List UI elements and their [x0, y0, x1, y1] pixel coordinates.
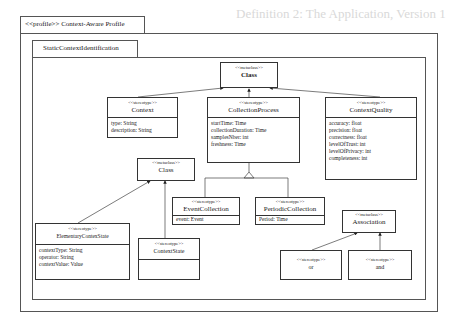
stereotype-context: <<stereotype>> Context type: String desc…: [107, 97, 178, 138]
attribute: Period: Time: [259, 216, 321, 223]
attribute: event: Event: [176, 216, 236, 223]
metaclass-class-top: <<metaclass>> Class: [220, 62, 278, 88]
attribute-list: Period: Time: [256, 215, 324, 223]
class-name: EventCollection: [173, 205, 239, 214]
class-name: and: [349, 263, 411, 272]
metaclass-association: <<metaclass>> Association: [342, 210, 396, 233]
class-name: PeriodicCollection: [256, 205, 324, 214]
attribute: accuracy: float: [329, 120, 413, 127]
class-name: Class: [138, 166, 194, 175]
class-name: ContextState: [139, 247, 199, 256]
attribute: freshness: Time: [211, 141, 296, 148]
stereotype-periodic-collection: <<stereotype>> PeriodicCollection Period…: [255, 197, 325, 225]
attribute-list: [139, 259, 199, 278]
attribute: startTime: Time: [211, 120, 296, 127]
stereotype-context-quality: <<stereotype>> ContextQuality accuracy: …: [325, 97, 417, 180]
attribute: correctness: float: [329, 134, 413, 141]
stereotype-context-state: <<stereotype>> ContextState: [138, 238, 200, 280]
attribute: contextValue: Value: [39, 261, 126, 268]
attribute: completeness: int: [329, 155, 413, 162]
class-name: CollectionProcess: [208, 106, 299, 115]
attribute-list: type: String description: String: [108, 117, 177, 136]
class-name: ContextQuality: [326, 106, 416, 115]
attribute: levelOfTrust: int: [329, 141, 413, 148]
stereotype-elementary-contex-state: <<stereotype>> ElementaryContexState con…: [35, 223, 130, 280]
attribute: precision: float: [329, 127, 413, 134]
class-name: ElementaryContexState: [36, 232, 129, 241]
class-name: Association: [343, 218, 395, 227]
attribute: collectionDuration: Time: [211, 127, 296, 134]
attribute-list: contextType: String operator: String con…: [36, 244, 129, 270]
attribute: operator: String: [39, 254, 126, 261]
attribute: samplesNber: int: [211, 134, 296, 141]
attribute-list: event: Event: [173, 215, 239, 223]
attribute: type: String: [111, 120, 174, 127]
metaclass-class-mid: <<metaclass>> Class: [137, 158, 195, 181]
stereotype-collection-process: <<stereotype>> CollectionProcess startTi…: [207, 97, 300, 163]
class-name: Context: [108, 106, 177, 115]
attribute: description: String: [111, 127, 174, 134]
attribute-list: startTime: Time collectionDuration: Time…: [208, 117, 299, 150]
attribute: levelOfPrivacy: int: [329, 148, 413, 155]
stereotype-event-collection: <<stereotype>> EventCollection event: Ev…: [172, 197, 240, 225]
stereotype-and: <<stereotype>> and: [348, 250, 412, 280]
attribute: contextType: String: [39, 247, 126, 254]
stereotype-or: <<stereotype>> or: [280, 250, 342, 280]
attribute-list: accuracy: float precision: float correct…: [326, 117, 416, 164]
class-name: or: [281, 263, 341, 272]
class-name: Class: [221, 71, 277, 80]
